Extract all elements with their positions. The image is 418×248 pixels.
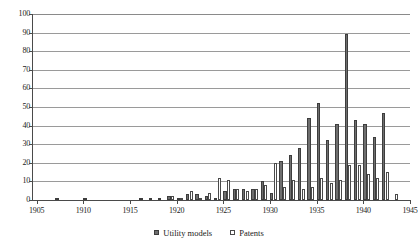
legend-item-patents[interactable]: Patents — [230, 228, 264, 238]
legend-label: Utility models — [163, 228, 212, 238]
x-tick-mark-1940 — [363, 200, 364, 204]
bars-layer — [33, 14, 410, 200]
x-tick-mark-1930 — [270, 200, 271, 204]
bar-patents-1919 — [171, 196, 174, 200]
bar-patents-1939 — [358, 165, 361, 200]
x-tick-label-1925: 1925 — [203, 206, 243, 215]
y-tick-mark-10 — [29, 181, 32, 182]
x-tick-mark-1920 — [177, 200, 178, 204]
x-tick-label-1945: 1945 — [390, 206, 418, 215]
x-tick-mark-1905 — [37, 200, 38, 204]
x-tick-mark-1945 — [410, 200, 411, 204]
y-tick-label-30: 30 — [2, 140, 30, 148]
open-square-icon — [230, 230, 235, 235]
bar-patents-1920 — [180, 198, 183, 200]
x-tick-label-1940: 1940 — [343, 206, 383, 215]
legend-label: Patents — [239, 228, 264, 238]
bar-patents-1923 — [208, 193, 211, 200]
x-tick-label-1935: 1935 — [297, 206, 337, 215]
y-tick-label-70: 70 — [2, 66, 30, 74]
bar-patents-1938 — [348, 165, 351, 200]
bar-patents-1930 — [274, 163, 277, 200]
x-axis-line — [32, 200, 410, 201]
y-tick-label-0: 0 — [2, 196, 30, 204]
x-tick-mark-1910 — [83, 200, 84, 204]
bar-patents-1927 — [246, 191, 249, 200]
x-tick-label-1930: 1930 — [250, 206, 290, 215]
y-tick-mark-0 — [29, 200, 32, 201]
bar-utility-models-1917 — [149, 198, 152, 200]
bar-patents-1942 — [386, 172, 389, 200]
bar-patents-1933 — [302, 189, 305, 200]
y-tick-label-100: 100 — [2, 10, 30, 18]
x-tick-mark-1915 — [130, 200, 131, 204]
bar-utility-models-1918 — [158, 198, 161, 200]
bar-patents-1928 — [255, 189, 258, 200]
bar-patents-1934 — [311, 187, 314, 200]
bar-utility-models-1907 — [55, 198, 58, 200]
y-tick-mark-80 — [29, 51, 32, 52]
bar-patents-1935 — [320, 178, 323, 200]
y-tick-label-40: 40 — [2, 122, 30, 130]
y-tick-mark-50 — [29, 107, 32, 108]
bar-patents-1932 — [292, 180, 295, 200]
bar-patents-1929 — [264, 185, 267, 200]
bar-patents-1941 — [376, 178, 379, 200]
bar-patents-1921 — [190, 191, 193, 200]
chart-legend: Utility modelsPatents — [0, 228, 418, 238]
bar-patents-1936 — [330, 183, 333, 200]
bar-patents-1943 — [395, 194, 398, 200]
y-tick-mark-60 — [29, 88, 32, 89]
y-tick-label-90: 90 — [2, 29, 30, 37]
y-tick-label-20: 20 — [2, 159, 30, 167]
x-tick-mark-1925 — [223, 200, 224, 204]
x-tick-label-1905: 1905 — [17, 206, 57, 215]
y-tick-mark-100 — [29, 14, 32, 15]
bar-patents-1940 — [367, 174, 370, 200]
bar-patents-1931 — [283, 187, 286, 200]
bar-patents-1926 — [236, 189, 239, 200]
y-tick-label-50: 50 — [2, 103, 30, 111]
y-tick-label-10: 10 — [2, 177, 30, 185]
x-tick-label-1920: 1920 — [157, 206, 197, 215]
x-tick-label-1915: 1915 — [110, 206, 150, 215]
bar-chart: 0102030405060708090100 Utility modelsPat… — [0, 0, 418, 248]
bar-patents-1925 — [227, 180, 230, 200]
bar-patents-1937 — [339, 180, 342, 200]
y-tick-label-60: 60 — [2, 84, 30, 92]
filled-square-icon — [154, 230, 159, 235]
bar-patents-1922 — [199, 198, 202, 200]
y-tick-mark-70 — [29, 70, 32, 71]
y-tick-mark-40 — [29, 126, 32, 127]
x-tick-label-1910: 1910 — [63, 206, 103, 215]
y-tick-mark-90 — [29, 33, 32, 34]
y-tick-mark-30 — [29, 144, 32, 145]
legend-item-utility-models[interactable]: Utility models — [154, 228, 212, 238]
bar-patents-1924 — [218, 178, 221, 200]
x-tick-mark-1935 — [317, 200, 318, 204]
y-tick-label-80: 80 — [2, 47, 30, 55]
y-tick-mark-20 — [29, 163, 32, 164]
bar-utility-models-1916 — [139, 198, 142, 200]
